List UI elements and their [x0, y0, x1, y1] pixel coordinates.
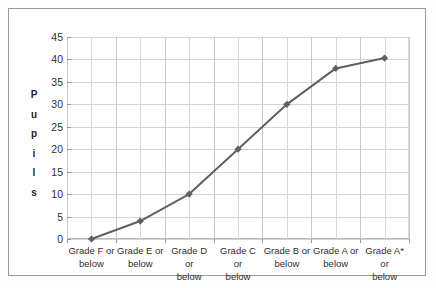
x-axis-tick-label: Grade B orbelow [262, 244, 311, 284]
x-axis-tick-mark [311, 239, 312, 243]
x-axis-tick-label-line: Grade E or [117, 244, 164, 257]
horizontal-grid-line [67, 239, 409, 240]
x-axis-tick-label-line: below [117, 257, 164, 270]
x-axis-tick-label-line: Grade A* or [361, 244, 408, 270]
data-point-marker [381, 54, 388, 61]
data-point-marker [88, 235, 95, 242]
y-axis-tick-mark [67, 127, 71, 128]
y-axis-tick-label: 45 [17, 32, 63, 42]
y-axis-tick-label: 35 [17, 77, 63, 87]
y-axis-tick-mark [67, 149, 71, 150]
x-axis-tick-label-line: below [68, 257, 115, 270]
x-axis-tick-mark [262, 239, 263, 243]
y-axis-tick-label: 30 [17, 99, 63, 109]
x-axis-tick-label-line: below [263, 257, 310, 270]
x-axis-tick-mark [360, 239, 361, 243]
y-axis-tick-label: 10 [17, 189, 63, 199]
x-axis-tick-label-line: Grade A or [312, 244, 359, 257]
vertical-grid-line [409, 37, 410, 239]
x-axis-tick-label: Grade F orbelow [67, 244, 116, 284]
data-series-line [67, 37, 409, 239]
x-axis-tick-label-line: below [312, 257, 359, 270]
x-axis-tick-mark [116, 239, 117, 243]
chart-outer-frame: Pupils 051015202530354045 Grade F orbelo… [8, 8, 426, 276]
x-axis-tick-label: Grade D orbelow [165, 244, 214, 284]
x-axis-tick-mark [67, 239, 68, 243]
x-axis-tick-label-line: below [166, 270, 213, 283]
y-axis-tick-labels: 051015202530354045 [13, 37, 63, 239]
x-axis-tick-labels: Grade F orbelowGrade E orbelowGrade D or… [67, 244, 409, 284]
plot-area [67, 37, 409, 239]
chart-figure: Pupils 051015202530354045 Grade F orbelo… [0, 0, 436, 288]
y-axis-tick-mark [67, 172, 71, 173]
x-axis-tick-mark [165, 239, 166, 243]
x-axis-tick-label: Grade A orbelow [311, 244, 360, 284]
y-axis-tick-label: 40 [17, 54, 63, 64]
y-axis-tick-mark [67, 82, 71, 83]
x-axis-tick-label-line: Grade B or [263, 244, 310, 257]
x-axis-tick-mark [214, 239, 215, 243]
x-axis-tick-label: Grade E orbelow [116, 244, 165, 284]
y-axis-tick-mark [67, 37, 71, 38]
x-axis-tick-label: Grade A* orbelow [360, 244, 409, 284]
y-axis-tick-label: 20 [17, 144, 63, 154]
y-axis-tick-mark [67, 194, 71, 195]
y-axis-tick-label: 25 [17, 122, 63, 132]
x-axis-tick-mark [409, 239, 410, 243]
x-axis-tick-label-line: Grade D or [166, 244, 213, 270]
x-axis-tick-label-line: below [215, 270, 262, 283]
x-axis-tick-label-line: below [361, 270, 408, 283]
y-axis-tick-label: 5 [17, 212, 63, 222]
y-axis-tick-label: 15 [17, 167, 63, 177]
x-axis-tick-label: Grade C orbelow [214, 244, 263, 284]
y-axis-tick-mark [67, 217, 71, 218]
y-axis-tick-mark [67, 59, 71, 60]
x-axis-tick-label-line: Grade C or [215, 244, 262, 270]
y-axis-tick-label: 0 [17, 234, 63, 244]
y-axis-tick-mark [67, 104, 71, 105]
x-axis-tick-label-line: Grade F or [68, 244, 115, 257]
